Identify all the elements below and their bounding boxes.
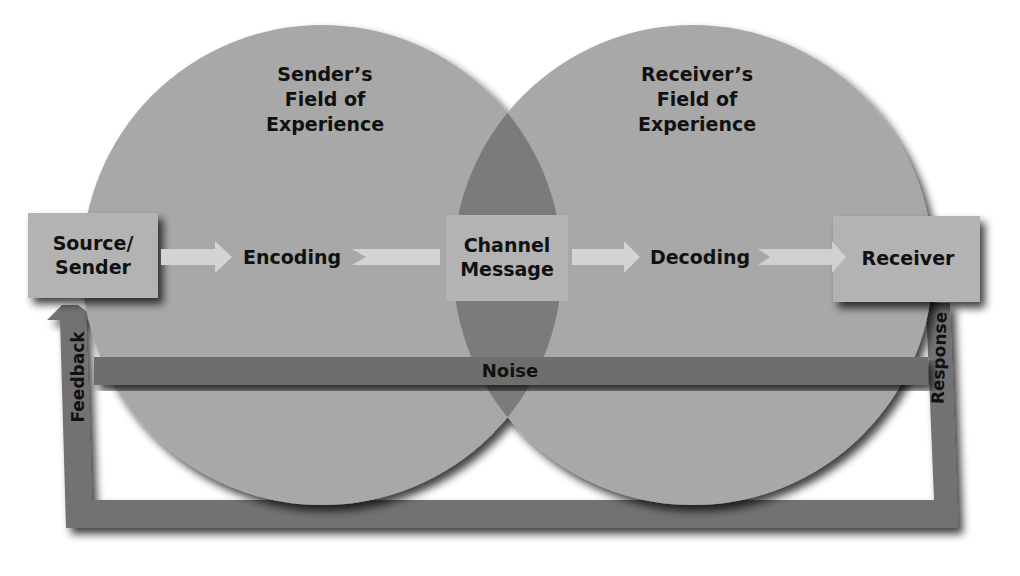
response-label: Response	[926, 308, 951, 409]
receiver-field-label: Receiver’s Field of Experience	[612, 62, 782, 137]
feedback-label: Feedback	[67, 327, 89, 427]
receiver-label: Receiver	[848, 246, 968, 270]
source-sender-label: Source/ Sender	[28, 231, 158, 279]
communication-model-diagram: Sender’s Field of Experience Receiver’s …	[0, 0, 1020, 576]
diagram-graphics	[0, 0, 1020, 576]
decoding-label: Decoding	[642, 245, 758, 269]
noise-label: Noise	[440, 360, 580, 382]
encoding-label: Encoding	[236, 245, 348, 269]
sender-field-label: Sender’s Field of Experience	[240, 62, 410, 137]
channel-message-label: Channel Message	[446, 233, 568, 281]
